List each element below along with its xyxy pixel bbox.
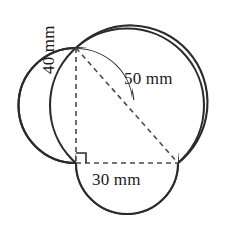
dimension-label-vertical-leg: 40 mm <box>39 25 59 74</box>
dimension-label-horizontal-leg: 30 mm <box>92 170 141 190</box>
figure-canvas <box>0 0 225 251</box>
geometry-figure: 40 mm 50 mm 30 mm <box>0 0 225 251</box>
dimension-label-hypotenuse: 50 mm <box>124 69 173 89</box>
